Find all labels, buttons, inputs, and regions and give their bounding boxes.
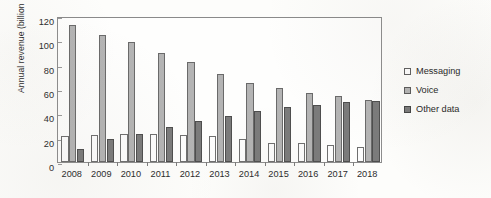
y-axis-tick-label: 80 [28, 66, 54, 77]
bar-messaging [120, 134, 127, 162]
legend-swatch-icon [404, 68, 411, 75]
x-axis-tick-mark [88, 162, 89, 166]
bar-voice [187, 62, 194, 162]
x-axis-tick-mark [206, 162, 207, 166]
bar-otherdata [107, 139, 114, 162]
x-axis-tick-labels: 2008200920102011201220132014201520162017… [57, 168, 382, 182]
bar-group [265, 18, 295, 162]
y-axis-tick-label: 0 [28, 163, 54, 174]
bar-voice [128, 42, 135, 162]
y-axis-tick-label: 60 [28, 90, 54, 101]
bar-voice [365, 100, 372, 162]
bar-otherdata [284, 107, 291, 162]
bar-otherdata [372, 101, 379, 162]
bar-otherdata [195, 121, 202, 162]
bar-voice [69, 25, 76, 162]
bar-group [324, 18, 354, 162]
bar-voice [335, 96, 342, 162]
bars-layer [58, 18, 381, 162]
legend-item-label: Voice [416, 85, 438, 96]
y-axis-tick-mark [58, 42, 62, 43]
y-axis-tick-label: 40 [28, 114, 54, 125]
y-axis-tick-label: 20 [28, 139, 54, 150]
bar-otherdata [166, 127, 173, 162]
y-axis-tick-label: 100 [28, 41, 54, 52]
x-axis-tick-mark [147, 162, 148, 166]
bar-group [206, 18, 236, 162]
legend-item: Other data [404, 101, 488, 117]
bar-messaging [298, 143, 305, 162]
bar-messaging [150, 134, 157, 162]
y-axis-tick-mark [58, 164, 62, 165]
bar-voice [276, 88, 283, 162]
y-axis-tick-mark [58, 91, 62, 92]
chart-legend: MessagingVoiceOther data [404, 63, 488, 120]
bar-voice [306, 93, 313, 162]
x-axis-tick-mark [176, 162, 177, 166]
bar-messaging [61, 136, 68, 162]
bar-group [294, 18, 324, 162]
legend-swatch-icon [404, 87, 411, 94]
legend-swatch-icon [404, 106, 411, 113]
bar-otherdata [343, 102, 350, 162]
bar-messaging [91, 135, 98, 162]
x-axis-tick-mark [235, 162, 236, 166]
bar-voice [217, 74, 224, 162]
bar-voice [158, 53, 165, 163]
bar-otherdata [313, 105, 320, 162]
bar-messaging [209, 136, 216, 162]
bar-group [88, 18, 118, 162]
bar-otherdata [254, 111, 261, 162]
x-axis-tick-mark [265, 162, 266, 166]
plot-area [57, 17, 382, 163]
x-axis-tick-mark [353, 162, 354, 166]
legend-item: Messaging [404, 63, 488, 79]
bar-messaging [327, 145, 334, 162]
bar-messaging [180, 135, 187, 162]
bar-chart: Annual revenue (billion Euros) 020406080… [0, 0, 491, 198]
bar-group [353, 18, 383, 162]
bar-group [147, 18, 177, 162]
bar-otherdata [225, 116, 232, 162]
bar-voice [246, 83, 253, 162]
legend-item-label: Messaging [416, 66, 460, 77]
legend-item: Voice [404, 82, 488, 98]
y-axis-tick-mark [58, 67, 62, 68]
y-axis-tick-mark [58, 115, 62, 116]
y-axis-tick-labels: 020406080100120 [28, 11, 54, 165]
bar-otherdata [77, 149, 84, 162]
x-axis-tick-mark [324, 162, 325, 166]
y-axis-tick-mark [58, 18, 62, 19]
x-axis-tick-label: 2018 [347, 168, 387, 180]
bar-messaging [239, 139, 246, 162]
bar-messaging [357, 147, 364, 162]
x-axis-tick-mark [117, 162, 118, 166]
x-axis-tick-mark [294, 162, 295, 166]
y-axis-title: Annual revenue (billion Euros) [14, 0, 28, 104]
bar-group [117, 18, 147, 162]
bar-messaging [268, 143, 275, 162]
bar-group [235, 18, 265, 162]
legend-item-label: Other data [416, 104, 459, 115]
bar-group [176, 18, 206, 162]
bar-voice [99, 35, 106, 162]
bar-otherdata [136, 134, 143, 162]
bar-group [58, 18, 88, 162]
y-axis-tick-label: 120 [28, 17, 54, 28]
